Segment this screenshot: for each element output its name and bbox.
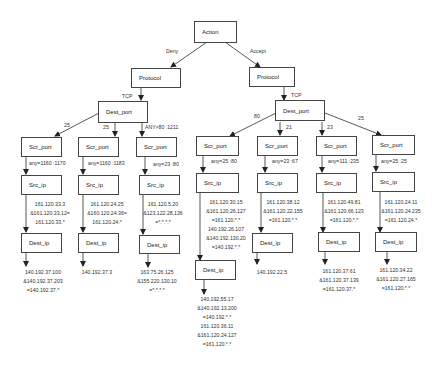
src-ip-node: Src_ip: [78, 175, 119, 195]
scr-port-label: Scr_port: [380, 142, 403, 148]
dest-ip-values: 140.192.22.5: [257, 268, 287, 277]
src-ip-label: Src_ip: [204, 180, 221, 186]
src-ip-values: 161.120.38.12 &161.120.22.155 =161.120.*…: [263, 198, 303, 225]
scr-port-label: Scr_port: [144, 144, 167, 150]
ip-value: =140.192.37.*: [23, 286, 63, 295]
src-ip-node: Src_ip: [139, 175, 180, 195]
scr-port-edge-label: any=23 :67: [272, 159, 298, 164]
dest-ip-values: 161.120.34.22 &161.120.27.165 =161.120.*…: [376, 266, 416, 293]
ip-value: 161.120.36.11: [197, 322, 237, 331]
dest-ip-label: Dest_ip: [86, 240, 106, 246]
right-dest-port-node: Dest_port: [275, 100, 325, 121]
ip-value: 161.120.5.20: [143, 200, 183, 209]
src-ip-label: Src_ip: [147, 182, 164, 188]
right-dest-port-label: Dest_port: [283, 108, 309, 114]
ip-value: 161.120.30.15: [206, 198, 246, 207]
ip-value: &161.120.24.127: [197, 331, 237, 340]
ip-value: =*.*.*.*: [137, 286, 177, 295]
ip-value: &161.120.26.127: [206, 207, 246, 216]
right-branch-1-edge-label: 21: [286, 125, 292, 130]
scr-port-label: Scr_port: [324, 143, 347, 149]
left-dest-port-label: Dest_port: [106, 109, 132, 115]
dest-ip-node: Dest_ip: [21, 233, 62, 253]
ip-value: 163.75.26.125: [137, 268, 177, 277]
ip-value: =*.*.*.*: [143, 218, 183, 227]
dest-ip-values: 140.192.55.17 &140.192.13.200 =140.192.*…: [197, 295, 237, 349]
right-protocol-node: Protocol: [249, 67, 295, 87]
dest-ip-label: Dest_ip: [383, 239, 403, 245]
ip-value: =161.120.*.*: [206, 216, 246, 225]
ip-value: =140.192.*.*: [197, 313, 237, 322]
scr-port-label: Scr_port: [86, 144, 109, 150]
scr-port-node: Scr_port: [78, 137, 119, 157]
ip-value: &161.120.27.165: [376, 275, 416, 284]
ip-value: 161.120.33.*: [30, 218, 70, 227]
src-ip-node: Src_ip: [21, 175, 62, 195]
src-ip-label: Src_ip: [265, 180, 282, 186]
src-ip-node: Src_ip: [257, 173, 298, 193]
ip-value: &161.120.24.235: [381, 207, 421, 216]
ip-value: 161.120.37.61: [319, 267, 359, 276]
left-tcp-edge-label: TCP: [122, 94, 132, 99]
dest-ip-node: Dest_ip: [375, 232, 417, 252]
scr-port-node: Scr_port: [136, 137, 177, 157]
ip-value: &140.192.13.200: [197, 304, 237, 313]
scr-port-node: Scr_port: [372, 135, 415, 155]
left-branch-1-edge-label: 25: [103, 125, 109, 130]
ip-value: 161.120.24.*: [87, 218, 127, 227]
scr-port-label: Scr_port: [265, 143, 288, 149]
left-dest-port-node: Dest_port: [98, 101, 148, 123]
ip-value: 140.192.37.100: [23, 268, 63, 277]
right-branch-3-edge-label: 25: [358, 116, 364, 121]
right-protocol-label: Protocol: [257, 74, 279, 80]
scr-port-node: Scr_port: [21, 137, 62, 157]
ip-value: =161.120.37.*: [319, 285, 359, 294]
ip-value: 161.120.33.3: [30, 200, 70, 209]
src-ip-label: Src_ip: [86, 182, 103, 188]
dest-ip-label: Dest_ip: [260, 240, 280, 246]
dest-ip-label: Dest_ip: [326, 239, 346, 245]
dest-ip-node: Dest_ip: [318, 232, 360, 252]
left-branch-2-edge-label: ANY≠80 :1211: [145, 125, 178, 130]
ip-value: &161.120.37.139: [319, 276, 359, 285]
right-tcp-edge-label: TCP: [291, 93, 301, 98]
ip-value: 161.120.38.12: [263, 198, 303, 207]
left-protocol-node: Protocol: [131, 68, 181, 88]
src-ip-values: 161.120.49.81 &161.120.66.123 =161.120.*…: [324, 198, 364, 225]
dest-ip-values: 163.75.26.125 &155.220.130.10 =*.*.*.*: [137, 268, 177, 295]
ip-value: =161.120.*.*: [376, 284, 416, 293]
right-branch-0-edge-label: 80: [254, 114, 260, 119]
ip-value: &140.192.130.20: [206, 234, 246, 243]
src-ip-values: 161.120.33.3 &161.120.33.12= 161.120.33.…: [30, 200, 70, 227]
dest-ip-node: Dest_ip: [139, 235, 180, 254]
left-branch-0-edge-label: 25: [64, 123, 70, 128]
ip-value: =140.192.*.*: [206, 243, 246, 252]
dest-ip-values: 161.120.37.61 &161.120.37.139 =161.120.3…: [319, 267, 359, 294]
dest-ip-node: Dest_ip: [78, 233, 119, 253]
ip-value: =161.120.*.*: [324, 216, 364, 225]
scr-port-label: Scr_port: [29, 144, 52, 150]
ip-value: &123.122.28.136: [143, 209, 183, 218]
dest-ip-node: Dest_ip: [252, 233, 293, 253]
scr-port-edge-label: any=25 :80: [211, 159, 237, 164]
src-ip-node: Src_ip: [372, 172, 415, 192]
src-ip-node: Src_ip: [316, 173, 357, 193]
action-node: Action: [194, 21, 237, 43]
deny-edge-label: Deny: [166, 49, 178, 54]
dest-ip-node: Dest_ip: [195, 260, 236, 280]
src-ip-values: 161.120.24.11 &161.120.24.235 =161.120.2…: [381, 198, 421, 225]
ip-value: 161.120.24.25: [87, 200, 127, 209]
right-branch-2-edge-label: 23: [327, 125, 333, 130]
dest-ip-label: Dest_ip: [147, 242, 167, 248]
ip-value: 161.120.34.22: [376, 266, 416, 275]
ip-value: 140.192.37.3: [82, 268, 112, 277]
ip-value: &161.120.33.12=: [30, 209, 70, 218]
dest-ip-values: 140.192.37.100 &140.192.37.203 =140.192.…: [23, 268, 63, 295]
accept-edge-label: Accept: [250, 49, 266, 54]
scr-port-edge-label: any=1160 :1183: [88, 161, 125, 166]
scr-port-edge-label: any=23 :80: [153, 162, 179, 167]
ip-value: =161.120.24.*: [381, 216, 421, 225]
ip-value: &160.120.24.36=: [87, 209, 127, 218]
ip-value: 161.120.24.11: [381, 198, 421, 207]
ip-value: 140.192.26.107: [206, 225, 246, 234]
